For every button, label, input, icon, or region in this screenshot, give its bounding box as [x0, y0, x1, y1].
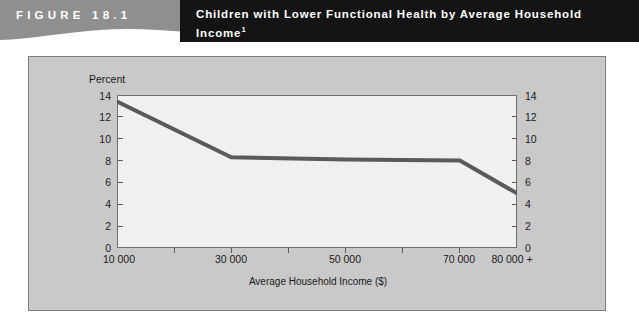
x-tick-mark-40000 — [288, 248, 289, 253]
x-tick-mark-60000 — [402, 248, 403, 253]
series-layer — [117, 95, 517, 248]
y-tick-label-right-10: 10 — [525, 134, 551, 144]
x-tick-mark-20000 — [174, 248, 175, 253]
y-tick-label-left-12: 12 — [85, 112, 111, 122]
x-tick-label-80000plus: 80 000 + — [491, 253, 532, 265]
y-tick-label-left-4: 4 — [85, 199, 111, 209]
figure-page: FIGURE 18.1 Children with Lower Function… — [0, 0, 639, 330]
y-tick-label-left-10: 10 — [85, 134, 111, 144]
figure-title-line1: Children with Lower Functional Health by… — [196, 8, 582, 20]
x-tick-label-30000: 30 000 — [215, 253, 247, 265]
figure-title-bar: Children with Lower Functional Health by… — [180, 0, 639, 42]
x-tick-label-70000: 70 000 — [443, 253, 475, 265]
y-tick-label-left-0: 0 — [85, 243, 111, 253]
x-tick-label-10000: 10 000 — [103, 253, 135, 265]
y-tick-label-left-14: 14 — [85, 91, 111, 101]
x-axis-title: Average Household Income ($) — [29, 276, 607, 287]
y-axis-title: Percent — [89, 73, 125, 85]
y-tick-label-right-0: 0 — [525, 243, 551, 253]
figure-title: Children with Lower Functional Health by… — [196, 7, 626, 41]
y-tick-label-left-6: 6 — [85, 177, 111, 187]
figure-title-line2: Income — [196, 27, 241, 39]
y-tick-label-right-14: 14 — [525, 91, 551, 101]
series-line-children-lower-functional-health — [117, 95, 517, 248]
chart-panel: Percent 14 12 10 8 6 4 2 0 14 12 10 8 6 … — [28, 56, 606, 311]
figure-number-label: FIGURE 18.1 — [16, 9, 131, 21]
y-tick-label-left-2: 2 — [85, 221, 111, 231]
y-tick-label-right-6: 6 — [525, 177, 551, 187]
figure-title-footnote-marker: 1 — [241, 25, 245, 34]
y-tick-label-right-12: 12 — [525, 112, 551, 122]
y-tick-label-right-2: 2 — [525, 221, 551, 231]
x-tick-label-50000: 50 000 — [329, 253, 361, 265]
line-chart: Percent 14 12 10 8 6 4 2 0 14 12 10 8 6 … — [29, 57, 607, 312]
y-tick-label-right-4: 4 — [525, 199, 551, 209]
y-tick-label-right-8: 8 — [525, 156, 551, 166]
y-tick-label-left-8: 8 — [85, 156, 111, 166]
